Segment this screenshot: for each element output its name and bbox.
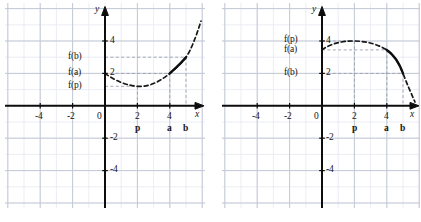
graph-panel-left: -4 -2 0 2 4 4 2 -2 -4 x y f(b) f(a) f(p)… <box>0 0 211 222</box>
y-axis-label-left: y <box>95 5 99 15</box>
y-tick-label-right-1: 2 <box>326 68 331 78</box>
value-label-left-fb: f(b) <box>68 52 81 62</box>
y-tick-label-left-3: -4 <box>110 165 118 175</box>
value-label-left-fp: f(p) <box>68 81 81 91</box>
x-tick-label-left-4: 4 <box>167 112 172 122</box>
y-tick-label-left-1: 2 <box>110 68 115 78</box>
graph-panel-right: -4 -2 0 2 4 4 2 -2 -4 x y f(p) f(a) f(b)… <box>211 0 421 222</box>
x-tick-label-right-1: -2 <box>284 112 292 122</box>
x-tick-label-right-0: -4 <box>252 112 260 122</box>
y-tick-label-right-2: -2 <box>326 133 334 143</box>
y-tick-label-right-0: 4 <box>326 36 331 46</box>
point-marker-right-b: b <box>400 124 405 134</box>
curve-dashed-left <box>105 21 201 86</box>
point-marker-left-b: b <box>183 124 188 134</box>
point-marker-left-a: a <box>167 124 172 134</box>
y-tick-label-left-0: 4 <box>110 36 115 46</box>
y-tick-label-right-3: -4 <box>326 165 334 175</box>
x-tick-label-left-0: -4 <box>35 112 43 122</box>
plot-area-left: -4 -2 0 2 4 4 2 -2 -4 x y f(b) f(a) f(p)… <box>5 3 205 208</box>
x-axis-label-left: x <box>195 110 199 120</box>
value-label-left-fa: f(a) <box>68 68 81 78</box>
point-marker-right-a: a <box>384 124 389 134</box>
curve-solid-right <box>387 50 403 74</box>
axes-left <box>5 7 204 209</box>
y-tick-label-left-2: -2 <box>110 133 118 143</box>
value-label-right-fa: f(a) <box>284 45 297 55</box>
curve-solid-left <box>170 57 186 73</box>
x-axis-label-right: x <box>410 110 414 120</box>
axes-right <box>222 7 419 209</box>
plot-area-right: -4 -2 0 2 4 4 2 -2 -4 x y f(p) f(a) f(b)… <box>222 3 420 208</box>
point-marker-right-p: p <box>352 124 357 134</box>
x-tick-label-right-4: 4 <box>384 112 389 122</box>
coordinate-plane-left <box>5 3 205 208</box>
x-tick-label-left-2: 0 <box>97 112 102 122</box>
coordinate-plane-right <box>222 3 420 208</box>
y-axis-label-right: y <box>312 5 316 15</box>
value-label-right-fb: f(b) <box>284 68 297 78</box>
x-tick-label-right-3: 2 <box>352 112 357 122</box>
x-tick-label-left-3: 2 <box>135 112 140 122</box>
x-tick-label-right-2: 0 <box>314 112 319 122</box>
x-tick-label-left-1: -2 <box>67 112 75 122</box>
point-marker-left-p: p <box>135 124 140 134</box>
